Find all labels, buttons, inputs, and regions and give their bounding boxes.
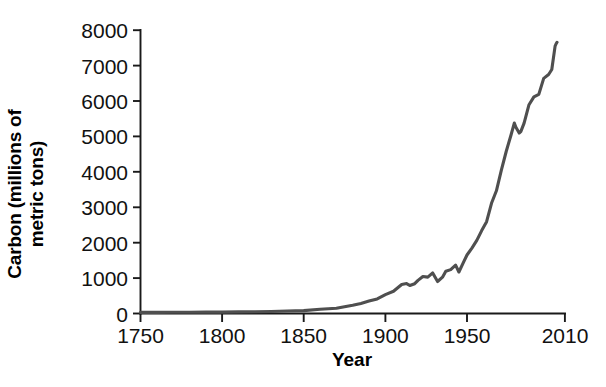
xtick-label-1800: 1800: [199, 325, 246, 346]
ytick-label-8000: 8000: [40, 20, 128, 41]
y-axis-title: Carbon (millions of metric tons): [0, 171, 151, 215]
y-axis-title-line2: metric tons): [26, 140, 47, 246]
xtick-label-1750: 1750: [117, 325, 164, 346]
xtick-label-2010: 2010: [542, 325, 589, 346]
ytick-label-1000: 1000: [40, 268, 128, 289]
ytick-label-6000: 6000: [40, 91, 128, 112]
ytick-label-7000: 7000: [40, 55, 128, 76]
xtick-label-1950: 1950: [444, 325, 491, 346]
x-axis-title: Year: [332, 349, 372, 371]
ytick-label-2000: 2000: [40, 232, 128, 253]
xtick-label-1850: 1850: [280, 325, 327, 346]
ytick-label-0: 0: [40, 303, 128, 324]
y-axis-title-line1: Carbon (millions of: [4, 109, 25, 278]
ytick-label-5000: 5000: [40, 126, 128, 147]
xtick-label-1900: 1900: [362, 325, 409, 346]
carbon-emissions-chart: 0 1000 2000 3000 4000 5000 6000 7000 800…: [0, 0, 606, 387]
emissions-curve: [141, 42, 558, 312]
